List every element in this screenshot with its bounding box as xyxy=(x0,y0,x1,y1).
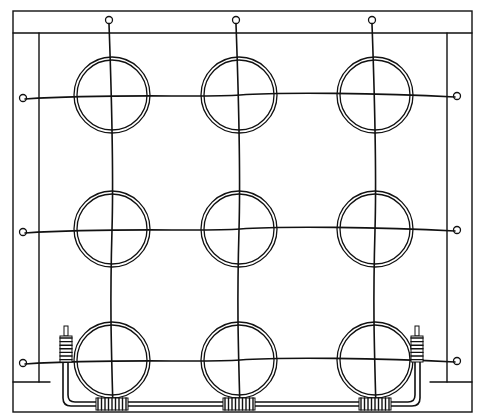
wire-end-loop xyxy=(106,17,113,24)
vertical-wire xyxy=(236,24,240,408)
bottom-coil xyxy=(96,398,128,410)
bottom-coil xyxy=(359,398,391,410)
coil-post xyxy=(64,326,68,336)
coil-post xyxy=(415,326,419,336)
side-coil xyxy=(411,326,423,362)
wire-end-loop xyxy=(233,17,240,24)
horizontal-wire xyxy=(25,227,455,233)
side-coil xyxy=(60,326,72,362)
wire-end-loop xyxy=(454,358,461,365)
wire-end-loop xyxy=(20,229,27,236)
bottom-coil xyxy=(223,398,255,410)
vertical-wire xyxy=(109,24,113,408)
wire-end-loop xyxy=(454,227,461,234)
wire-end-loop xyxy=(20,95,27,102)
wires-group xyxy=(20,17,461,409)
vertical-wire xyxy=(372,24,376,408)
horizontal-wire xyxy=(25,93,455,99)
wire-end-loop xyxy=(20,360,27,367)
frame-diagram xyxy=(0,0,477,417)
wire-end-loop xyxy=(454,93,461,100)
wire-end-loop xyxy=(369,17,376,24)
horizontal-wire xyxy=(25,358,455,364)
